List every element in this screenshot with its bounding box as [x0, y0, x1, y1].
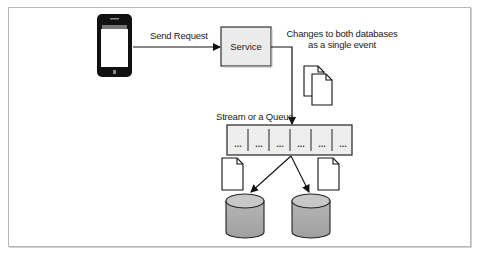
- queue-label: Stream or a Queue: [216, 111, 293, 122]
- service-label: Service: [221, 27, 271, 66]
- event-label-line2: as a single event: [286, 39, 398, 50]
- queue-to-db2-arrow: [291, 156, 309, 192]
- document-icon: [222, 158, 243, 190]
- documents-icon: [304, 66, 332, 105]
- event-label: Changes to both databases as a single ev…: [286, 28, 398, 50]
- event-label-line1: Changes to both databases: [286, 28, 398, 39]
- queue-cell: ...: [333, 139, 353, 149]
- queue-to-db1-arrow: [251, 156, 291, 192]
- document-icon: [318, 158, 339, 190]
- database-icon: [226, 194, 264, 238]
- database-icon: [292, 194, 330, 238]
- queue-cell: ...: [249, 139, 269, 149]
- mobile-phone-icon: [97, 14, 132, 77]
- queue-cell: ...: [228, 139, 248, 149]
- send-request-label: Send Request: [150, 30, 208, 41]
- queue-cell: ...: [270, 139, 290, 149]
- queue-cell: ...: [312, 139, 332, 149]
- queue-cell: ...: [291, 139, 311, 149]
